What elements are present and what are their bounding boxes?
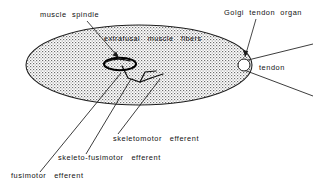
label-skeletomotor-efferent: skeletomotor efferent: [113, 134, 199, 143]
label-muscle-spindle: muscle spindle: [40, 10, 99, 19]
anatomical-figure: muscle spindle Golgi tendon organ extraf…: [0, 0, 315, 184]
label-golgi-tendon-organ: Golgi tendon organ: [224, 8, 302, 17]
golgi-tendon-organ: [238, 59, 250, 71]
label-skeleto-fusimotor-efferent: skeleto-fusimotor efferent: [58, 153, 161, 162]
label-fusimotor-efferent: fusimotor efferent: [11, 171, 83, 180]
label-tendon: tendon: [259, 63, 285, 72]
golgi-tendon-organ-arrow: [243, 19, 256, 57]
label-extrafusal-muscle-fibers: extrafusal muscle fibers: [104, 34, 202, 43]
